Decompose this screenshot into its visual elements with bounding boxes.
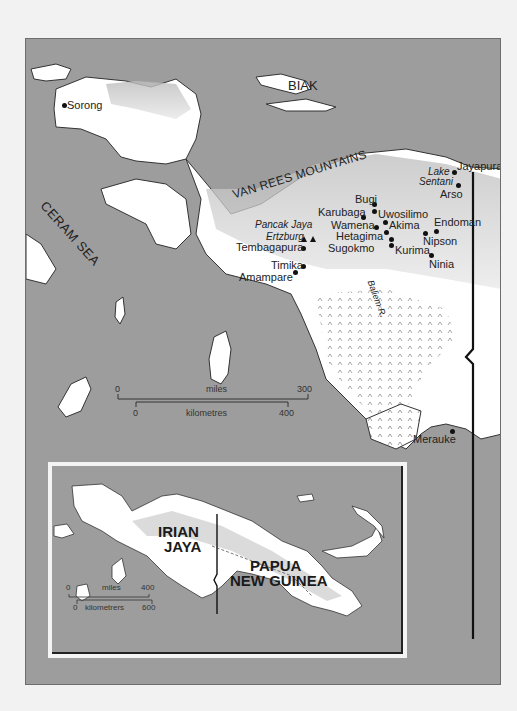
town-label-arso: Arso xyxy=(440,189,463,200)
inset-scale-miles-label: miles xyxy=(102,583,121,592)
inset-scale-miles-end: 400 xyxy=(141,583,154,592)
scale-km-end: 400 xyxy=(279,408,294,418)
town-label-sugokmo: Sugokmo xyxy=(328,243,374,254)
town-label-akima: Akima xyxy=(389,220,420,231)
town-label-timika: Timika xyxy=(271,260,303,271)
inset-map: IRIAN JAYA PAPUA NEW GUINEA 0 miles 400 … xyxy=(48,462,407,658)
town-label-bugi: Bugi xyxy=(355,194,377,205)
inset-map-body: IRIAN JAYA PAPUA NEW GUINEA 0 miles 400 … xyxy=(52,466,403,654)
town-label-jayapura: Jayapura xyxy=(457,161,501,172)
scale-km-start: 0 xyxy=(133,408,138,418)
town-dot-uwosilimo xyxy=(372,209,377,214)
town-label-endoman: Endoman xyxy=(434,217,481,228)
town-label-ninia: Ninia xyxy=(429,259,454,270)
town-dot-kurima xyxy=(389,243,394,248)
island-label-biak: BIAK xyxy=(288,79,318,92)
inset-scale-km-label: kilometrers xyxy=(85,603,124,612)
town-label-sorong: Sorong xyxy=(67,100,102,111)
town-dot-sugokmo xyxy=(389,237,394,242)
region-label-irian-jaya-line2: JAYA xyxy=(164,539,201,555)
town-dot-hetagima xyxy=(384,230,389,235)
peak-label-pancak-jaya: Pancak Jaya xyxy=(255,220,312,230)
town-label-amampare: Amampare xyxy=(239,272,293,283)
town-label-nipson: Nipson xyxy=(423,236,457,247)
inset-geography xyxy=(52,466,403,654)
scale-km-label: kilometres xyxy=(186,408,227,418)
region-label-png-line2: NEW GUINEA xyxy=(230,573,328,589)
town-label-merauke: Merauke xyxy=(413,434,456,445)
town-label-tembagapura: Tembagapura xyxy=(236,242,303,253)
town-dot-amampare xyxy=(293,270,298,275)
town-dot-endoman xyxy=(434,229,439,234)
inset-scale-miles-start: 0 xyxy=(66,583,70,592)
inset-scale-km-start: 0 xyxy=(73,603,77,612)
town-label-hetagima: Hetagima xyxy=(336,231,383,242)
inset-scale-km-end: 600 xyxy=(142,603,155,612)
scale-miles-end: 300 xyxy=(297,384,312,394)
town-dot-akima xyxy=(383,220,388,225)
scale-miles-label: miles xyxy=(206,384,227,394)
mountain-peak-icon xyxy=(310,236,316,242)
scale-miles-start: 0 xyxy=(115,384,120,394)
town-label-karubaga: Karubaga xyxy=(318,207,366,218)
lake-label-2: Sentani xyxy=(419,177,453,187)
